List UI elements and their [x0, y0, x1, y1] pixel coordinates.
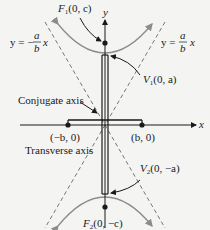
y-axis-label: y: [102, 6, 108, 18]
svg-text:a: a: [34, 29, 40, 41]
asymptote-negative-label: y = − a b x: [10, 29, 48, 54]
svg-text:x: x: [42, 36, 48, 48]
svg-text:a: a: [180, 29, 186, 41]
v2-label: V2(0, −a): [140, 162, 180, 176]
asymptote-positive-label: y = a b x: [161, 29, 195, 54]
f1-callout-arrow: [80, 18, 101, 41]
f1-label: F1(0, c): [57, 2, 92, 16]
v1-label: V1(0, a): [143, 73, 177, 87]
conjugate-axis-label: Conjugate axis: [18, 94, 84, 106]
svg-text:x: x: [189, 36, 195, 48]
svg-text:y = −: y = −: [10, 36, 33, 48]
focus-f2-point: [102, 204, 107, 209]
svg-text:y =: y =: [161, 36, 175, 48]
v2-callout-arrow: [111, 180, 140, 193]
svg-text:b: b: [34, 42, 40, 54]
focus-f1-point: [102, 40, 107, 45]
hyperbola-diagram: y x F1(0, c) V1(0, a) V2(0, −a) F2(0, −c…: [0, 0, 210, 230]
x-axis-label: x: [198, 118, 204, 130]
f2-label: F2(0, −c): [82, 217, 123, 230]
neg-b-label: (−b, 0): [50, 131, 80, 144]
point-pos-b: [139, 122, 144, 127]
transverse-axis-label: Transverse axis: [25, 144, 93, 156]
point-neg-b: [65, 122, 70, 127]
pos-b-label: (b, 0): [131, 131, 155, 144]
svg-text:b: b: [180, 42, 186, 54]
